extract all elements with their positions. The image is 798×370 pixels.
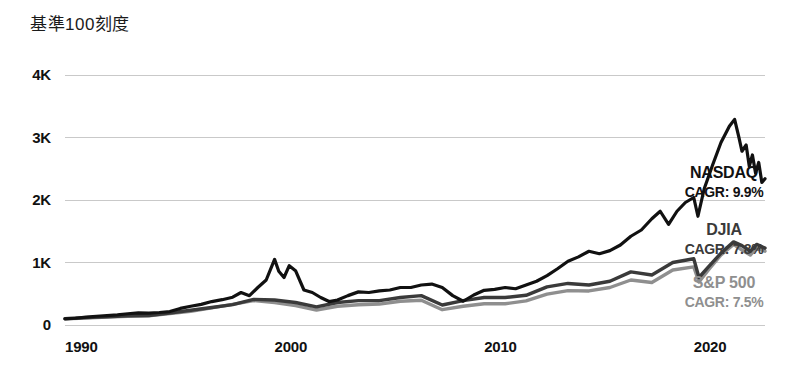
y-axis-tick-label: 3K bbox=[32, 129, 51, 146]
x-axis-tick-label: 2000 bbox=[275, 338, 308, 355]
chart-plot-area: 01K2K3K4K 1990200020102020 NASDAQCAGR: 9… bbox=[0, 0, 798, 370]
data-line-s-p-500 bbox=[65, 244, 765, 318]
y-axis-labels-group: 01K2K3K4K bbox=[32, 66, 51, 333]
x-axis-tick-label: 2010 bbox=[484, 338, 517, 355]
legend-series-name: S&P 500 bbox=[693, 274, 756, 291]
x-axis-labels-group: 1990200020102020 bbox=[65, 338, 726, 355]
legend-series-cagr: CAGR: 7.8% bbox=[685, 241, 765, 257]
x-axis-tick-label: 2020 bbox=[694, 338, 727, 355]
legend-series-cagr: CAGR: 9.9% bbox=[685, 184, 765, 200]
x-axis-tick-label: 1990 bbox=[65, 338, 98, 355]
legend-series-cagr: CAGR: 7.5% bbox=[685, 294, 765, 310]
data-series-group bbox=[65, 119, 765, 318]
legend-series-name: DJIA bbox=[706, 221, 742, 238]
data-line-nasdaq bbox=[65, 119, 765, 318]
y-axis-tick-label: 4K bbox=[32, 66, 51, 83]
data-line-djia bbox=[65, 242, 765, 319]
chart-container: 基準100刻度 01K2K3K4K 1990200020102020 NASDA… bbox=[0, 0, 798, 370]
legend-series-name: NASDAQ bbox=[690, 164, 758, 181]
y-axis-tick-label: 0 bbox=[43, 316, 51, 333]
series-legend-group: NASDAQCAGR: 9.9%DJIACAGR: 7.8%S&P 500CAG… bbox=[685, 164, 765, 310]
y-axis-tick-label: 2K bbox=[32, 191, 51, 208]
y-axis-tick-label: 1K bbox=[32, 254, 51, 271]
